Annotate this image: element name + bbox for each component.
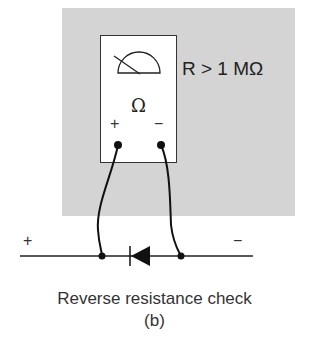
- minus-lead: [161, 145, 181, 256]
- caption-title: Reverse resistance check: [0, 289, 309, 309]
- node-right: [178, 253, 185, 260]
- plus-lead: [98, 145, 118, 256]
- node-left: [99, 253, 106, 260]
- diode-icon: [130, 246, 150, 266]
- caption-sub: (b): [0, 311, 309, 331]
- gauge-icon: [114, 52, 160, 74]
